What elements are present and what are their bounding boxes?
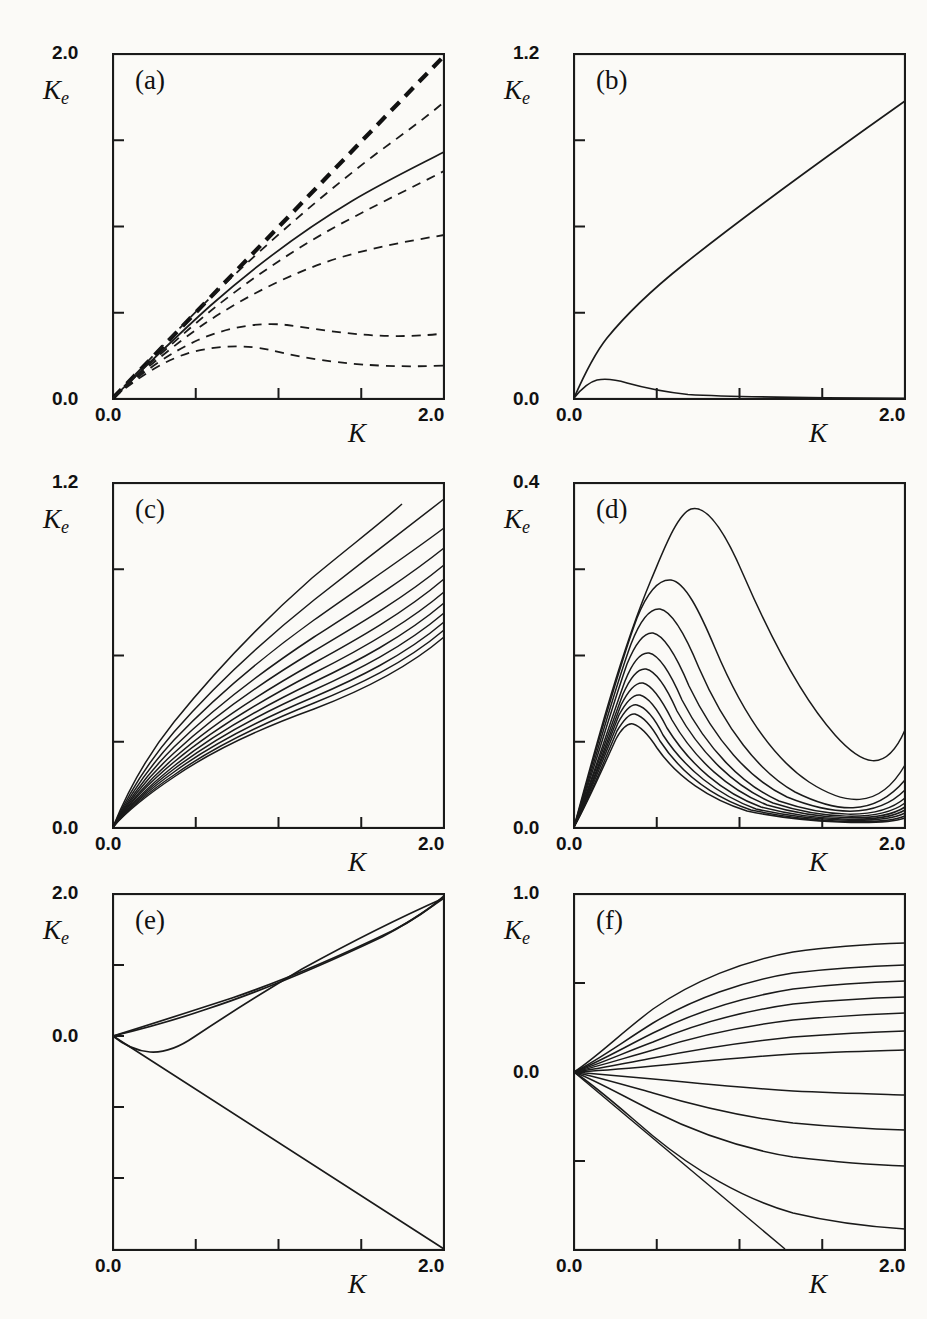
- panel-e-ytick-top: 2.0: [52, 882, 78, 904]
- curve-b-upper: [574, 101, 905, 398]
- panel-e-xtick-right: 2.0: [418, 1255, 444, 1277]
- panel-a-xtick-left: 0.0: [95, 404, 121, 426]
- panel-e-xlabel: K: [348, 1269, 366, 1300]
- panel-a-ytick-top: 2.0: [52, 42, 78, 64]
- panel-c-ytick-bottom: 0.0: [52, 817, 78, 839]
- panel-a-plot: [112, 53, 445, 400]
- curve-e-descending-line: [113, 1036, 444, 1249]
- panel-d-xtick-right: 2.0: [879, 833, 905, 855]
- panel-b-ytick-top: 1.2: [513, 42, 539, 64]
- figure-canvas: 2.0 0.0 0.0 2.0 Ke K (a) 1.2 0.0 0.0 2.0…: [0, 0, 927, 1319]
- panel-b-ylabel: Ke: [504, 75, 530, 109]
- panel-b-xtick-left: 0.0: [556, 404, 582, 426]
- panel-f: [573, 893, 906, 1251]
- panel-d-xtick-left: 0.0: [556, 833, 582, 855]
- curve-family-d: [574, 508, 905, 827]
- panel-d: [573, 482, 906, 829]
- panel-e-ylabel: Ke: [43, 915, 69, 949]
- panel-c-xtick-right: 2.0: [418, 833, 444, 855]
- curve-family-f: [574, 943, 905, 1249]
- panel-b-tag: (b): [596, 65, 627, 96]
- curve-family-c: [113, 499, 444, 827]
- panel-e-plot: [112, 893, 445, 1251]
- panel-d-tag: (d): [596, 494, 627, 525]
- panel-f-xlabel: K: [809, 1269, 827, 1300]
- panel-e-ytick-mid: 0.0: [52, 1025, 78, 1047]
- curve-a-3: [113, 152, 444, 398]
- panel-c-tag: (c): [135, 494, 165, 525]
- panel-d-ytick-top: 0.4: [513, 471, 539, 493]
- panel-c-ylabel: Ke: [43, 504, 69, 538]
- panel-b: [573, 53, 906, 400]
- panel-c-ytick-top: 1.2: [52, 471, 78, 493]
- panel-a-xlabel: K: [348, 418, 366, 449]
- panel-b-plot: [573, 53, 906, 400]
- panel-a-xtick-right: 2.0: [418, 404, 444, 426]
- panel-e-tag: (e): [135, 905, 165, 936]
- curve-a-5: [113, 235, 444, 398]
- panel-b-ytick-bottom: 0.0: [513, 388, 539, 410]
- panel-f-xtick-right: 2.0: [879, 1255, 905, 1277]
- panel-f-tag: (f): [596, 905, 623, 936]
- panel-d-xlabel: K: [809, 847, 827, 878]
- panel-c-plot: [112, 482, 445, 829]
- panel-a-ylabel: Ke: [43, 75, 69, 109]
- panel-e: [112, 893, 445, 1251]
- panel-a-tag: (a): [135, 65, 165, 96]
- panel-b-xtick-right: 2.0: [879, 404, 905, 426]
- curve-f-descending-line: [574, 1072, 785, 1249]
- panel-d-ytick-bottom: 0.0: [513, 817, 539, 839]
- panel-f-ytick-top: 1.0: [513, 882, 539, 904]
- panel-f-ylabel: Ke: [504, 915, 530, 949]
- panel-a: [112, 53, 445, 400]
- panel-e-xtick-left: 0.0: [95, 1255, 121, 1277]
- panel-c: [112, 482, 445, 829]
- panel-f-plot: [573, 893, 906, 1251]
- panel-c-xlabel: K: [348, 847, 366, 878]
- curve-a-6: [113, 324, 444, 398]
- panel-d-plot: [573, 482, 906, 829]
- panel-f-xtick-left: 0.0: [556, 1255, 582, 1277]
- panel-c-xtick-left: 0.0: [95, 833, 121, 855]
- panel-b-xlabel: K: [809, 418, 827, 449]
- panel-f-ytick-mid: 0.0: [513, 1061, 539, 1083]
- curve-a-4: [113, 171, 444, 398]
- panel-d-ylabel: Ke: [504, 504, 530, 538]
- panel-a-ytick-bottom: 0.0: [52, 388, 78, 410]
